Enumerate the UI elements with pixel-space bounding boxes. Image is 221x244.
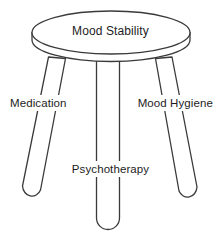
stool-leg-center-shape bbox=[97, 55, 120, 230]
seat-label-mood-stability: Mood Stability bbox=[69, 24, 152, 38]
stool-leg-left-shape bbox=[23, 57, 66, 196]
leg-label-medication: Medication bbox=[8, 95, 69, 111]
stool-diagram: Mood Stability Medication Psychotherapy … bbox=[0, 0, 221, 244]
leg-label-psychotherapy: Psychotherapy bbox=[70, 161, 151, 177]
stool-leg-right-shape bbox=[156, 57, 198, 197]
leg-label-mood-hygiene: Mood Hygiene bbox=[136, 95, 215, 111]
